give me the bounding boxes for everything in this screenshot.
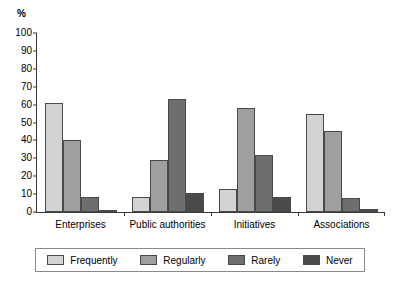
bar — [63, 140, 81, 212]
y-axis-tick-label: 0 — [6, 207, 32, 217]
legend-item-label: Regularly — [163, 255, 205, 266]
y-axis-tick-mark — [33, 68, 37, 69]
y-axis-tick-label: 70 — [6, 82, 32, 92]
y-axis-tick-label: 60 — [6, 100, 32, 110]
chart-legend: FrequentlyRegularlyRarelyNever — [35, 248, 365, 272]
y-axis-tick-mark — [33, 86, 37, 87]
y-axis-tick-mark — [33, 212, 37, 213]
y-axis-tick-mark — [33, 140, 37, 141]
legend-item[interactable]: Regularly — [140, 255, 205, 266]
y-axis-tick-label: 90 — [6, 46, 32, 56]
y-axis-tick-label: 100 — [6, 28, 32, 38]
x-axis-category-label: Associations — [313, 219, 369, 230]
x-axis-group-separator — [124, 212, 125, 216]
x-axis-end-tick — [384, 212, 385, 216]
bar — [342, 198, 360, 212]
bar — [273, 197, 291, 212]
bar-group — [306, 33, 378, 212]
bar-chart: % 1009080706050403020100 EnterprisesPubl… — [0, 0, 401, 287]
bar — [237, 108, 255, 212]
legend-swatch-icon — [47, 255, 64, 265]
x-axis-category-label: Public authorities — [129, 219, 205, 230]
y-axis-tick-label: 40 — [6, 135, 32, 145]
y-axis-tick-mark — [33, 176, 37, 177]
bar — [45, 103, 63, 212]
bar — [306, 114, 324, 212]
x-axis-category-label: Enterprises — [55, 219, 106, 230]
bar — [219, 189, 237, 212]
bar — [81, 197, 99, 212]
y-axis-tick-label: 50 — [6, 118, 32, 128]
legend-item[interactable]: Frequently — [47, 255, 117, 266]
bar — [324, 131, 342, 212]
bar-group — [132, 33, 204, 212]
legend-swatch-icon — [228, 255, 245, 265]
x-axis-group-separator — [298, 212, 299, 216]
bar — [255, 155, 273, 212]
bar — [168, 99, 186, 212]
y-axis-tick-label: 20 — [6, 171, 32, 181]
y-axis-tick-mark — [33, 158, 37, 159]
y-axis-tick-mark — [33, 104, 37, 105]
bar — [150, 160, 168, 212]
y-axis-tick-label: 80 — [6, 64, 32, 74]
legend-item[interactable]: Rarely — [228, 255, 280, 266]
legend-swatch-icon — [303, 255, 320, 265]
legend-item-label: Frequently — [70, 255, 117, 266]
bar-group — [45, 33, 117, 212]
y-axis-tick-label: 30 — [6, 153, 32, 163]
legend-item-label: Never — [326, 255, 353, 266]
legend-swatch-icon — [140, 255, 157, 265]
legend-item-label: Rarely — [251, 255, 280, 266]
y-axis-tick-mark — [33, 122, 37, 123]
y-axis-unit-label: % — [17, 8, 26, 19]
bar-group — [219, 33, 291, 212]
legend-item[interactable]: Never — [303, 255, 353, 266]
y-axis-tick-mark — [33, 33, 37, 34]
plot-area: 1009080706050403020100 EnterprisesPublic… — [36, 33, 385, 213]
bar — [360, 209, 378, 212]
y-axis-tick-mark — [33, 194, 37, 195]
bar — [132, 197, 150, 212]
bar — [186, 193, 204, 212]
x-axis-group-separator — [211, 212, 212, 216]
y-axis-tick-label: 10 — [6, 189, 32, 199]
y-axis-tick-mark — [33, 50, 37, 51]
x-axis-category-label: Initiatives — [234, 219, 276, 230]
bar — [99, 210, 117, 212]
